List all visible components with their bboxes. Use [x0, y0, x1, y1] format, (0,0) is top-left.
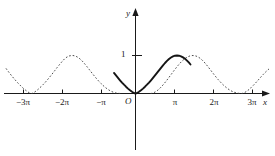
- y-axis-arrowhead: [132, 8, 138, 16]
- x-axis-label: x: [263, 98, 267, 107]
- curve-solid-principal: [114, 56, 191, 94]
- origin-label: O: [125, 97, 132, 106]
- y-tick-label-one: 1: [121, 50, 126, 59]
- x-tick-label-pos-2pi: 2π: [209, 98, 218, 107]
- x-axis-arrowhead: [262, 90, 270, 96]
- x-tick-label-pos-3pi: 3π: [247, 98, 256, 107]
- x-tick-label-neg-3pi: −3π: [16, 98, 30, 107]
- curve-dashed-extension: [6, 56, 269, 94]
- graph-figure: y x O 1 −3π −2π −π π 2π 3π: [0, 0, 275, 156]
- y-axis-label: y: [126, 9, 130, 18]
- x-tick-label-pos-pi: π: [173, 98, 178, 107]
- x-tick-label-neg-2pi: −2π: [55, 98, 69, 107]
- x-tick-label-neg-pi: −π: [96, 98, 106, 107]
- plot-canvas: [0, 0, 275, 156]
